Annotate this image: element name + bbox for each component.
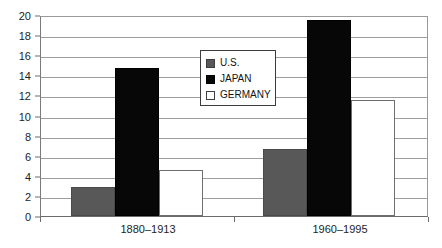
- legend-label-us: U.S.: [220, 58, 239, 68]
- legend-item-germany: GERMANY: [206, 87, 275, 103]
- bar-japan-1: [307, 20, 351, 216]
- gridline: [41, 37, 427, 38]
- y-tick-mark: [35, 16, 40, 17]
- y-tick-mark: [35, 136, 40, 137]
- y-tick-mark: [35, 76, 40, 77]
- y-tick-mark: [35, 96, 40, 97]
- legend: U.S. JAPAN GERMANY: [200, 50, 276, 106]
- y-tick-mark: [35, 36, 40, 37]
- y-tick-label: 4: [0, 171, 31, 182]
- y-tick-label: 8: [0, 131, 31, 142]
- legend-swatch-icon-us: [206, 59, 215, 68]
- y-tick-mark: [35, 176, 40, 177]
- x-tick-mark: [40, 217, 41, 222]
- y-tick-label: 14: [0, 71, 31, 82]
- legend-swatch-icon-germany: [206, 91, 215, 100]
- bar-germany-1: [351, 100, 395, 216]
- y-tick-label: 20: [0, 11, 31, 22]
- legend-swatch-icon-japan: [206, 75, 215, 84]
- y-tick-label: 10: [0, 111, 31, 122]
- y-tick-mark: [35, 116, 40, 117]
- plot-area: [40, 16, 428, 217]
- y-tick-label: 12: [0, 91, 31, 102]
- y-tick-label: 0: [0, 212, 31, 223]
- bar-us-1: [263, 149, 307, 216]
- bar-japan-0: [115, 68, 159, 216]
- bar-germany-0: [159, 170, 203, 216]
- x-tick-mark: [428, 217, 429, 222]
- legend-label-germany: GERMANY: [220, 90, 271, 100]
- y-tick-label: 18: [0, 31, 31, 42]
- y-tick-label: 2: [0, 191, 31, 202]
- legend-item-us: U.S.: [206, 55, 275, 71]
- x-tick-mark: [234, 217, 235, 222]
- bar-chart: 02468101214161820 1880–19131960–1995 U.S…: [0, 0, 442, 248]
- y-tick-mark: [35, 156, 40, 157]
- y-tick-label: 16: [0, 51, 31, 62]
- y-tick-mark: [35, 196, 40, 197]
- legend-label-japan: JAPAN: [220, 74, 252, 84]
- legend-item-japan: JAPAN: [206, 71, 275, 87]
- y-tick-mark: [35, 56, 40, 57]
- x-axis-label-0: 1880–1913: [120, 224, 175, 235]
- bar-us-0: [71, 187, 115, 216]
- x-axis-label-1: 1960–1995: [312, 224, 367, 235]
- y-tick-label: 6: [0, 151, 31, 162]
